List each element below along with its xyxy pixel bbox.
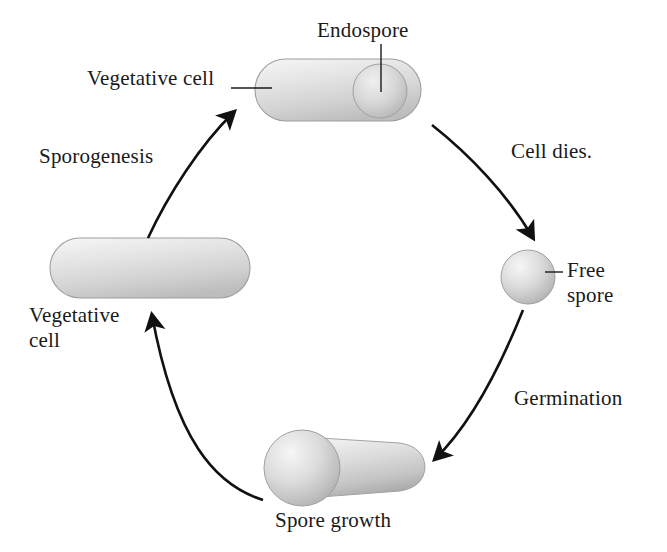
- free-spore-sphere: [501, 250, 555, 304]
- arrow-germination: [435, 310, 523, 459]
- spore-growth-sphere: [264, 430, 340, 506]
- endospore-sphere: [353, 64, 407, 118]
- label-free-spore-line1: Free: [567, 258, 614, 283]
- label-free-spore-line2: spore: [567, 283, 614, 308]
- label-endospore: Endospore: [317, 18, 409, 43]
- arrow-sporogenesis: [148, 112, 234, 238]
- label-vegetative-cell-left-line1: Vegetative: [29, 303, 120, 328]
- label-free-spore: Free spore: [567, 258, 614, 308]
- label-spore-growth: Spore growth: [275, 508, 391, 533]
- stage-vegetative-cell-with-endospore: [255, 59, 421, 121]
- capsule-body-left: [50, 238, 250, 298]
- label-vegetative-cell-top: Vegetative cell: [87, 66, 214, 91]
- stage-free-spore: [501, 250, 555, 304]
- stage-spore-growth: [264, 430, 425, 506]
- label-vegetative-cell-left-line2: cell: [29, 328, 120, 353]
- stage-vegetative-cell: [50, 238, 250, 298]
- arrow-spore-to-vegetative: [152, 315, 263, 500]
- endospore-cycle-diagram: Endospore Vegetative cell Sporogenesis C…: [0, 0, 667, 552]
- label-sporogenesis: Sporogenesis: [39, 144, 153, 169]
- label-germination: Germination: [514, 386, 622, 411]
- label-cell-dies: Cell dies.: [511, 139, 592, 164]
- label-vegetative-cell-left: Vegetative cell: [29, 303, 120, 353]
